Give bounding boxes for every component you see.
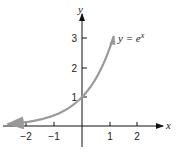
y-axis-label: y xyxy=(77,3,83,15)
exponential-chart: −2 −1 1 2 1 2 3 x y y = ex xyxy=(0,0,179,156)
curve-label-superscript: x xyxy=(140,31,145,40)
x-tick-label: 1 xyxy=(107,131,113,142)
x-tick-label: −2 xyxy=(20,131,32,142)
y-tick-label: 2 xyxy=(71,63,77,74)
exponential-curve xyxy=(8,37,113,124)
curve-arrow-icon xyxy=(109,35,115,45)
y-tick-label: 3 xyxy=(71,33,77,44)
curve-label: y = ex xyxy=(117,31,145,44)
x-tick-label: −1 xyxy=(48,131,60,142)
y-ticks xyxy=(82,38,87,97)
x-axis-label: x xyxy=(165,119,171,131)
x-tick-label: 2 xyxy=(134,131,140,142)
